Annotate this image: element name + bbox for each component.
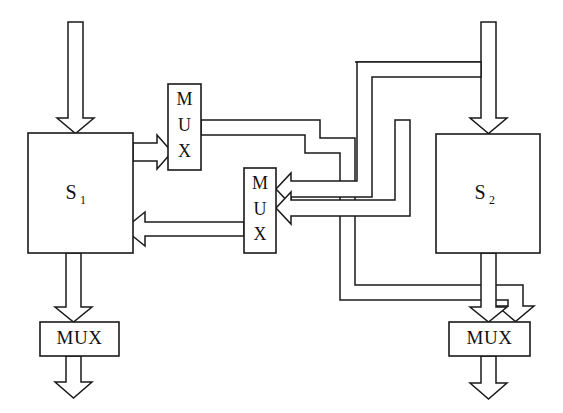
block-mux-middle-letter-x: X (254, 224, 267, 244)
block-mux-bottom-right[interactable]: MUX (449, 322, 530, 356)
block-system-right-rect (436, 134, 540, 253)
block-mux-top-letter-m: M (176, 89, 192, 109)
block-system-left[interactable]: S 1 (28, 133, 133, 253)
block-diagram-canvas: S 1 S 2 M U X M U X MUX (0, 0, 563, 413)
arrow-mux-middle-to-system-left (124, 212, 244, 246)
block-mux-middle[interactable]: M U X (244, 168, 276, 253)
block-mux-top-letter-u: U (178, 115, 191, 135)
arrow-mux-bottom-left-output (55, 356, 92, 398)
block-system-right-subscript: 2 (489, 193, 495, 207)
arrow-input-to-system-left (57, 22, 94, 134)
block-system-right[interactable]: S 2 (436, 134, 540, 253)
block-mux-top-letter-x: X (178, 141, 191, 161)
block-mux-bottom-right-label: MUX (467, 327, 513, 348)
arrow-mux-bottom-right-output (470, 356, 507, 399)
block-mux-bottom-left[interactable]: MUX (40, 322, 119, 356)
block-system-right-label: S (474, 181, 485, 203)
arrow-system-left-to-mux-top (133, 135, 172, 169)
block-system-left-subscript: 1 (80, 193, 86, 207)
block-mux-top[interactable]: M U X (168, 84, 201, 170)
block-mux-middle-letter-u: U (254, 199, 267, 219)
block-mux-middle-letter-m: M (252, 173, 268, 193)
block-mux-bottom-left-label: MUX (57, 327, 103, 348)
block-system-left-label: S (65, 181, 76, 203)
arrow-system-left-to-mux-bottom-left (55, 253, 92, 322)
diagram-svg: S 1 S 2 M U X M U X MUX (0, 0, 563, 413)
